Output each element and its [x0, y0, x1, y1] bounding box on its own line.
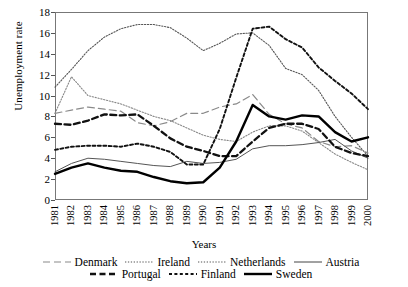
legend-label: Finland — [201, 268, 236, 280]
legend-swatch-bold-solid — [243, 269, 273, 279]
series-line-ireland — [55, 25, 368, 157]
legend-item-ireland[interactable]: Ireland — [124, 256, 190, 268]
x-tick-label: 1988 — [165, 205, 175, 226]
x-tick-label: 1986 — [132, 205, 142, 226]
legend-label: Sweden — [276, 268, 312, 280]
legend-swatch-bold-dash — [89, 269, 119, 279]
x-tick-label: 1984 — [99, 205, 109, 226]
legend-item-netherlands[interactable]: Netherlands — [197, 256, 286, 268]
series-line-netherlands — [55, 77, 368, 170]
x-tick-label: 1994 — [264, 205, 274, 226]
chart-legend: DenmarkIrelandNetherlandsAustria Portuga… — [0, 256, 408, 280]
legend-row-1: DenmarkIrelandNetherlandsAustria — [0, 256, 408, 268]
legend-line-icon — [124, 257, 154, 267]
legend-label: Ireland — [157, 256, 190, 268]
legend-item-denmark[interactable]: Denmark — [42, 256, 118, 268]
legend-swatch-fine-dot — [124, 257, 154, 267]
x-tick-label: 1996 — [297, 205, 307, 226]
x-tick-label: 1991 — [215, 205, 225, 226]
legend-item-austria[interactable]: Austria — [293, 256, 360, 268]
x-tick-label: 2000 — [363, 205, 373, 226]
chart-figure: Unemployment rate 024681012141618 198119… — [0, 0, 408, 287]
x-tick-label: 1998 — [330, 205, 340, 226]
legend-line-icon — [243, 269, 273, 279]
x-tick-label: 1995 — [281, 205, 291, 226]
legend-swatch-fine-dot — [197, 257, 227, 267]
legend-line-icon — [197, 257, 227, 267]
legend-swatch-long-dash — [42, 257, 72, 267]
x-tick-label: 1997 — [314, 205, 324, 226]
legend-line-icon — [293, 257, 323, 267]
legend-line-icon — [89, 269, 119, 279]
x-tick-label: 1989 — [182, 205, 192, 226]
legend-item-portugal[interactable]: Portugal — [89, 268, 161, 280]
legend-swatch-thin-solid — [293, 257, 323, 267]
x-axis-title: Years — [0, 238, 408, 250]
legend-label: Portugal — [122, 268, 161, 280]
legend-item-sweden[interactable]: Sweden — [243, 268, 312, 280]
legend-label: Denmark — [75, 256, 118, 268]
legend-line-icon — [42, 257, 72, 267]
x-tick-label: 1993 — [248, 205, 258, 226]
x-tick-label: 1985 — [116, 205, 126, 226]
legend-label: Netherlands — [230, 256, 286, 268]
x-tick-label: 1983 — [83, 205, 93, 226]
legend-row-2: PortugalFinlandSweden — [0, 268, 408, 280]
x-tick-label: 1982 — [66, 205, 76, 226]
series-line-portugal — [55, 114, 368, 156]
legend-line-icon — [168, 269, 198, 279]
legend-item-finland[interactable]: Finland — [168, 268, 236, 280]
x-tick-label: 1992 — [231, 205, 241, 226]
x-tick-label: 1981 — [50, 205, 60, 226]
x-tick-label: 1999 — [347, 205, 357, 226]
legend-swatch-med-dash — [168, 269, 198, 279]
x-tick-label: 1987 — [149, 205, 159, 226]
legend-label: Austria — [326, 256, 360, 268]
x-tick-label: 1990 — [198, 205, 208, 226]
